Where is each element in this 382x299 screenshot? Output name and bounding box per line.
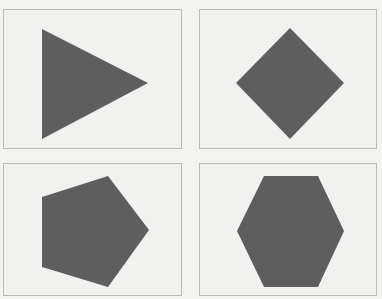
panel-pentagon: [3, 163, 182, 296]
diamond-shape: [200, 10, 378, 150]
panel-diamond: [199, 9, 377, 149]
panel-triangle: [3, 9, 182, 149]
pentagon-shape: [4, 164, 183, 297]
panel-hexagon: [199, 163, 377, 296]
hexagon-shape: [200, 164, 378, 297]
triangle-shape: [4, 10, 183, 150]
